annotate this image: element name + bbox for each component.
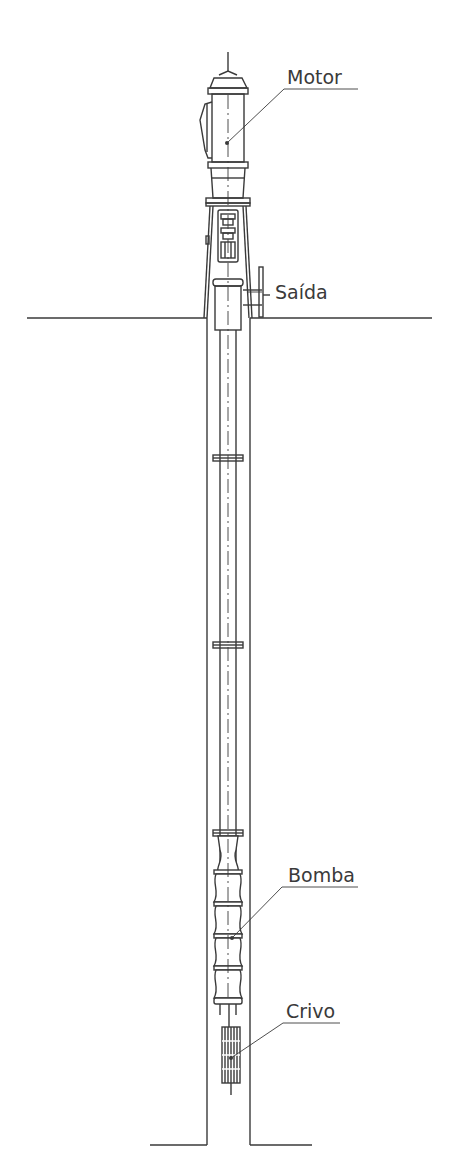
motor-label: Motor: [287, 68, 342, 87]
leader-lines: [227, 89, 358, 1058]
strainer: [222, 1004, 240, 1095]
motor: [200, 52, 250, 206]
crivo-point: [229, 1056, 233, 1060]
bomba-point: [230, 936, 234, 940]
motor-point: [225, 141, 229, 145]
crivo-label: Crivo: [286, 1002, 335, 1021]
discharge-head: [204, 206, 270, 330]
bomba-label: Bomba: [288, 866, 355, 885]
saida-label: Saída: [275, 283, 328, 302]
pump-diagram: [0, 0, 468, 1162]
